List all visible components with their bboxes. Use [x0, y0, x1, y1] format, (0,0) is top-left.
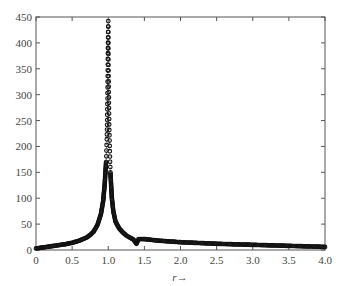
data-point — [107, 36, 111, 40]
x-tick-label: 4.0 — [318, 254, 332, 266]
y-tick-label: 400 — [16, 37, 33, 49]
y-tick-label: 450 — [16, 11, 33, 23]
data-point — [107, 69, 111, 73]
y-tick-label: 0 — [27, 244, 33, 256]
x-tick-label: 1.0 — [101, 254, 115, 266]
data-point — [107, 30, 111, 34]
data-point — [107, 41, 111, 45]
data-point — [107, 19, 111, 23]
y-tick-label: 350 — [16, 63, 33, 75]
x-tick-label: 0.5 — [65, 254, 79, 266]
x-tick-label: 3.5 — [282, 254, 296, 266]
data-point — [109, 165, 113, 169]
chart: 00.51.01.52.02.53.03.54.0 05010015020025… — [0, 0, 345, 286]
y-axis-ticks: 050100150200250300350400450 — [16, 11, 326, 256]
data-point — [107, 58, 111, 62]
x-tick-label: 0 — [33, 254, 39, 266]
y-tick-label: 300 — [16, 89, 33, 101]
data-point — [107, 63, 111, 67]
plot-frame — [36, 17, 325, 250]
y-tick-label: 150 — [16, 166, 33, 178]
x-tick-label: 1.5 — [138, 254, 152, 266]
x-tick-label: 3.0 — [246, 254, 260, 266]
x-tick-label: 2.5 — [210, 254, 224, 266]
data-point — [107, 74, 111, 78]
x-axis-ticks: 00.51.01.52.02.53.03.54.0 — [33, 17, 332, 266]
x-tick-label: 2.0 — [174, 254, 188, 266]
y-tick-label: 50 — [21, 218, 33, 230]
y-tick-label: 200 — [16, 140, 33, 152]
y-tick-label: 250 — [16, 115, 33, 127]
data-series — [34, 19, 327, 250]
data-point — [108, 149, 112, 153]
x-axis-label: r→ — [172, 271, 187, 283]
data-point — [108, 144, 112, 148]
y-tick-label: 100 — [16, 192, 33, 204]
